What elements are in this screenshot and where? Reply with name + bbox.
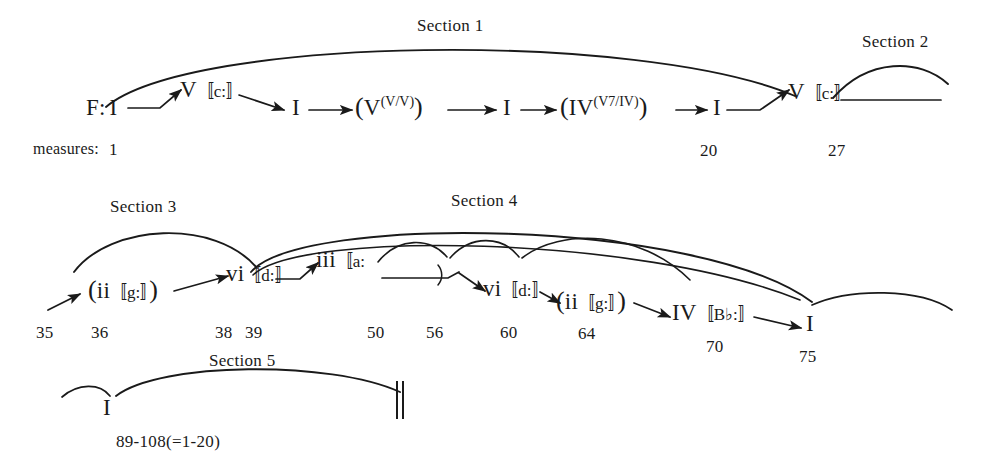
chord-one-a[interactable]: I bbox=[292, 96, 300, 119]
chord-roman: I bbox=[103, 395, 111, 420]
chord-vi-of-d-second[interactable]: vi〚d:〛 bbox=[483, 277, 549, 300]
measure-number-1: 1 bbox=[109, 141, 118, 158]
key-name: d: bbox=[261, 266, 274, 285]
chord-one-c[interactable]: I bbox=[713, 96, 721, 119]
chord-roman: V bbox=[788, 79, 805, 104]
key-name: c: bbox=[214, 82, 226, 101]
measure-number-70: 70 bbox=[706, 338, 724, 355]
key-bracket-open: 〚 bbox=[336, 252, 353, 271]
key-bracket-open: 〚 bbox=[578, 294, 595, 313]
chord-roman: ii bbox=[565, 289, 578, 314]
key-name: g: bbox=[595, 294, 608, 313]
chord-one-b[interactable]: I bbox=[503, 96, 511, 119]
key-bracket-close: 〛 bbox=[608, 294, 617, 313]
chord-one-row2-final[interactable]: I bbox=[806, 312, 814, 335]
key-bracket-open: 〚 bbox=[197, 82, 214, 101]
chord-roman: iii bbox=[316, 247, 336, 272]
bracket-close-iii bbox=[438, 265, 442, 285]
arrow-r1-7-8 bbox=[727, 90, 789, 110]
chord-roman: V bbox=[364, 95, 381, 120]
chord-roman: V bbox=[180, 77, 197, 102]
chord-v-of-c-second[interactable]: V〚c:〛 bbox=[788, 80, 851, 103]
key-bracket-open: 〚 bbox=[501, 281, 518, 300]
chord-v-applied[interactable]: (V(V/V)) bbox=[355, 94, 423, 120]
key-bracket-open: 〚 bbox=[244, 266, 261, 285]
chord-roman: IV bbox=[672, 300, 697, 325]
chord-superscript: (V7/IV) bbox=[594, 94, 639, 109]
key-bracket-close: 〛 bbox=[275, 266, 292, 285]
measures-prefix-label: measures: bbox=[33, 141, 99, 157]
paren-close: ) bbox=[414, 92, 423, 121]
paren-open: ( bbox=[355, 92, 364, 121]
chord-ii-of-g-first[interactable]: (ii〚g:〛) bbox=[88, 277, 158, 303]
arc-section-5 bbox=[116, 369, 400, 396]
measure-number-64: 64 bbox=[578, 325, 596, 342]
key-bracket-open: 〚 bbox=[110, 283, 127, 302]
chord-iii-of-a[interactable]: iii〚a: bbox=[316, 248, 365, 271]
key-bracket-close: 〛 bbox=[532, 281, 549, 300]
chord-roman: I bbox=[503, 95, 511, 120]
section-label-4: Section 4 bbox=[451, 192, 517, 209]
arrow-r1-1-2 bbox=[128, 90, 181, 108]
paren-close: ) bbox=[639, 92, 648, 121]
paren-open: ( bbox=[88, 275, 97, 304]
chord-vi-of-d-first[interactable]: vi〚d:〛 bbox=[226, 262, 292, 285]
measure-number-20: 20 bbox=[700, 142, 718, 159]
paren-open: ( bbox=[556, 286, 565, 315]
measure-number-27: 27 bbox=[828, 142, 846, 159]
arrow-r2-in bbox=[48, 294, 80, 310]
arc-r2-small-1 bbox=[378, 243, 447, 262]
arc-r2-tail bbox=[812, 293, 952, 310]
chord-roman: vi bbox=[226, 261, 244, 286]
measure-number-50: 50 bbox=[367, 324, 385, 341]
measure-number-56: 56 bbox=[426, 324, 444, 341]
key-bracket-close: 〛 bbox=[140, 283, 149, 302]
measure-number-75: 75 bbox=[799, 348, 817, 365]
chord-key-prefix: F: bbox=[86, 95, 106, 120]
arrow-r2-5-6 bbox=[634, 303, 670, 317]
section-label-5: Section 5 bbox=[209, 352, 275, 369]
section-label-3: Section 3 bbox=[110, 198, 176, 215]
chord-roman: vi bbox=[483, 276, 501, 301]
key-name: d: bbox=[518, 281, 531, 300]
measure-number-35: 35 bbox=[36, 324, 54, 341]
chord-iv-applied[interactable]: (IV(V7/IV)) bbox=[560, 94, 648, 120]
arrow-r2-6-7 bbox=[754, 317, 801, 328]
section-label-2: Section 2 bbox=[862, 33, 928, 50]
arc-r2-small-3 bbox=[522, 238, 690, 280]
chord-iv-of-bflat[interactable]: IV〚B♭:〛 bbox=[672, 301, 755, 324]
line-r2-prolong bbox=[382, 272, 459, 278]
key-bracket-close: 〛 bbox=[834, 84, 851, 103]
key-name: c: bbox=[822, 84, 834, 103]
measure-range-89-108: 89-108(=1-20) bbox=[116, 433, 220, 450]
diagram-strokes bbox=[0, 0, 990, 473]
arrow-r2-3-4 bbox=[459, 273, 485, 291]
chord-roman: IV bbox=[569, 95, 594, 120]
chord-roman: I bbox=[713, 95, 721, 120]
paren-open: ( bbox=[560, 92, 569, 121]
chord-roman: ii bbox=[97, 278, 110, 303]
measure-number-39: 39 bbox=[245, 324, 263, 341]
double-barline-icon bbox=[396, 381, 408, 423]
chord-v-of-c-first[interactable]: V〚c:〛 bbox=[180, 78, 243, 101]
key-bracket-close: 〛 bbox=[738, 305, 755, 324]
arrow-r2-1-2 bbox=[174, 276, 228, 291]
chord-f-major-one[interactable]: F:I bbox=[86, 96, 117, 119]
diagram-canvas: Section 1 Section 2 F:I V〚c:〛 I (V(V/V))… bbox=[0, 0, 990, 473]
measure-number-38: 38 bbox=[215, 324, 233, 341]
paren-close: ) bbox=[149, 275, 158, 304]
chord-roman: I bbox=[806, 311, 814, 336]
measure-number-36: 36 bbox=[91, 324, 109, 341]
key-bracket-close: 〛 bbox=[226, 82, 243, 101]
arc-r2-small-2 bbox=[450, 241, 519, 258]
chord-ii-of-g-second[interactable]: (ii〚g:〛) bbox=[556, 288, 626, 314]
chord-roman: I bbox=[110, 95, 118, 120]
key-name: g: bbox=[127, 283, 140, 302]
paren-close: ) bbox=[617, 286, 626, 315]
arrow-r1-2-3 bbox=[239, 95, 284, 110]
key-bracket-open: 〚 bbox=[805, 84, 822, 103]
measure-number-60: 60 bbox=[500, 324, 518, 341]
chord-one-row3[interactable]: I bbox=[103, 396, 111, 419]
key-name: B♭: bbox=[714, 305, 738, 324]
key-name: a: bbox=[353, 252, 365, 271]
